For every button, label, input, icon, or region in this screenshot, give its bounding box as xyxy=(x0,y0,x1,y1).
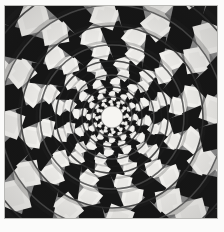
framed-pattern-panel xyxy=(4,5,218,219)
figure-root: Concentric Tilted-Square Optical Illusio… xyxy=(0,0,224,232)
overlaid-circle-arcs xyxy=(5,6,217,218)
